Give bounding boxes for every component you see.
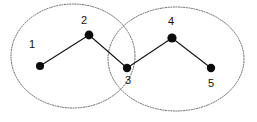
node-label-1: 1 — [29, 38, 35, 50]
graph-node — [36, 62, 44, 70]
graph-diagram: 1 2 3 4 5 — [0, 0, 257, 122]
graph-node — [85, 31, 94, 40]
graph-edge — [172, 38, 211, 68]
graph-edge — [40, 35, 89, 66]
node-label-4: 4 — [168, 15, 174, 27]
cluster-ellipse-right — [108, 7, 244, 111]
figure-container: 1 2 3 4 5 — [0, 0, 257, 122]
cluster-layer — [11, 4, 244, 111]
node-label-5: 5 — [208, 77, 214, 89]
node-label-2: 2 — [81, 14, 87, 26]
label-layer: 1 2 3 4 5 — [29, 14, 214, 89]
graph-edge — [127, 38, 172, 68]
node-label-3: 3 — [125, 74, 131, 86]
graph-node — [123, 64, 131, 72]
graph-node — [207, 64, 215, 72]
edge-layer — [40, 35, 211, 68]
graph-node — [167, 33, 176, 42]
cluster-ellipse-left — [11, 4, 135, 108]
